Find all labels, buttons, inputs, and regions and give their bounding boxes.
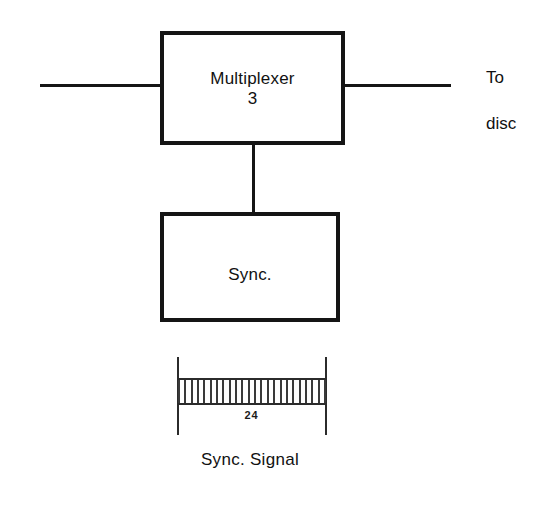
multiplexer-block: Multiplexer 3 — [160, 31, 345, 145]
pulse-bar — [210, 380, 212, 403]
pulse-bar — [216, 380, 218, 403]
pulse-bar — [267, 380, 269, 403]
pulse-bar — [241, 380, 243, 403]
pulse-bar — [229, 380, 231, 403]
pulse-bar — [222, 380, 224, 403]
pulse-bar — [178, 380, 180, 403]
to-disc-label-group: To disc — [486, 44, 516, 159]
pulse-bar — [191, 380, 193, 403]
pulse-bar — [280, 380, 282, 403]
sync-block-label: Sync. — [228, 265, 272, 285]
diagram-canvas: Multiplexer 3 To disc Sync. 24 Sync. Sig… — [0, 0, 547, 506]
multiplexer-label-line2: 3 — [248, 89, 258, 109]
pulse-bar — [305, 380, 307, 403]
pulse-bar — [248, 380, 250, 403]
pulse-bar — [203, 380, 205, 403]
multiplexer-label-group: Multiplexer 3 — [210, 69, 294, 109]
pulse-train — [178, 378, 326, 405]
pulse-bar — [254, 380, 256, 403]
pulse-bar — [286, 380, 288, 403]
output-wire — [343, 84, 451, 87]
to-disc-label-line1: To — [486, 67, 516, 90]
pulse-bar — [184, 380, 186, 403]
pulse-bar — [273, 380, 275, 403]
pulse-bar — [292, 380, 294, 403]
pulse-bar — [197, 380, 199, 403]
pulse-bar — [311, 380, 313, 403]
input-wire — [40, 84, 162, 87]
pulse-count-label: 24 — [170, 409, 333, 421]
pulse-bar — [318, 380, 320, 403]
to-disc-label-line2: disc — [486, 113, 516, 136]
sync-signal-waveform: 24 — [170, 352, 340, 442]
sync-block: Sync. — [160, 212, 340, 322]
mux-to-sync-wire — [252, 143, 255, 214]
pulse-bar — [324, 380, 326, 403]
pulse-bar — [235, 380, 237, 403]
pulse-bar — [260, 380, 262, 403]
sync-signal-caption: Sync. Signal — [130, 450, 370, 470]
pulse-bar — [299, 380, 301, 403]
multiplexer-label-line1: Multiplexer — [210, 69, 294, 89]
